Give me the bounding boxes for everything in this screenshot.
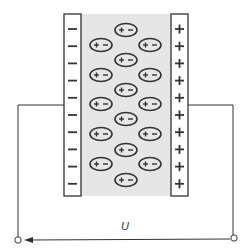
voltage-arrowhead-icon — [24, 237, 33, 243]
left-plate — [64, 14, 81, 196]
left-wire — [18, 105, 64, 239]
voltage-arrow-line — [28, 239, 230, 240]
left-terminal — [15, 237, 21, 243]
capacitor-diagram — [0, 0, 249, 251]
right-wire — [188, 105, 233, 237]
right-terminal — [231, 235, 237, 241]
voltage-label: U — [121, 220, 129, 232]
